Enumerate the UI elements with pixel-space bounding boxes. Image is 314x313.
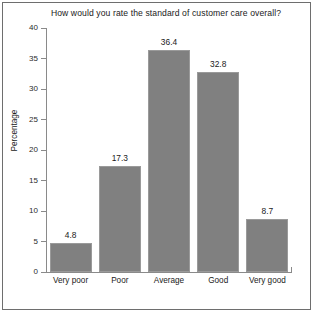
plot-area: Percentage 0510152025303540 4.817.336.43… [0,0,314,313]
bar [50,243,92,272]
y-axis-tick-label: 40 [14,24,38,32]
y-axis-tick [41,150,46,151]
y-axis-tick-label: 0 [14,268,38,276]
y-axis-tick [41,119,46,120]
y-axis-tick-label: 20 [14,146,38,154]
bar [99,166,141,272]
x-axis-line [46,272,292,273]
y-axis-tick-label: 30 [14,85,38,93]
bar-value-label: 4.8 [44,231,98,239]
y-axis-tick-label: 5 [14,238,38,246]
y-axis-tick [41,28,46,29]
bar-value-label: 17.3 [93,154,147,162]
y-axis-tick-label: 35 [14,55,38,63]
bar-value-label: 8.7 [240,207,294,215]
y-axis-tick-label: 15 [14,177,38,185]
y-axis-tick [41,180,46,181]
chart-figure: How would you rate the standard of custo… [0,0,314,313]
bar [148,50,190,272]
y-axis-tick [41,241,46,242]
y-axis-title: Percentage [10,96,19,166]
bar [246,219,288,272]
y-axis-tick-label: 25 [14,116,38,124]
y-axis-tick-label: 10 [14,207,38,215]
x-axis-end-tick [291,267,292,273]
bar [197,72,239,272]
x-axis-category-label: Very good [238,277,296,285]
y-axis-tick [41,58,46,59]
y-axis-tick [41,272,46,273]
bar-value-label: 32.8 [191,60,245,68]
y-axis-tick [41,211,46,212]
bar-value-label: 36.4 [142,38,196,46]
y-axis-tick [41,89,46,90]
